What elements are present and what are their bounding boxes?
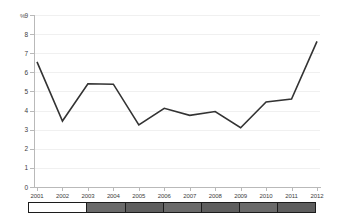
x-axis-tick (62, 188, 63, 191)
y-axis-tick-label: 6 (16, 69, 28, 76)
range-selector-segment[interactable] (87, 203, 125, 212)
x-axis-tick-label: 2012 (305, 193, 329, 199)
range-selector-segment[interactable] (202, 203, 240, 212)
x-axis-tick (266, 188, 267, 191)
x-axis-tick-label: 2011 (280, 193, 304, 199)
x-axis-tick-label: 2008 (203, 193, 227, 199)
x-axis-tick (292, 188, 293, 191)
y-axis-tick (30, 72, 34, 73)
range-selector-segment[interactable] (240, 203, 278, 212)
x-axis-tick-label: 2009 (229, 193, 253, 199)
y-axis-tick (30, 187, 34, 188)
x-axis-tick-label: 2006 (152, 193, 176, 199)
range-selector-segment[interactable] (278, 203, 315, 212)
y-axis-tick-label: 0 (16, 184, 28, 191)
x-axis-tick (37, 188, 38, 191)
x-axis-tick-label: 2001 (25, 193, 49, 199)
line-chart: % 9876543210 200120022003200420052006200… (0, 7, 339, 198)
y-axis-tick-label: 5 (16, 88, 28, 95)
y-axis-tick-label: 2 (16, 145, 28, 152)
y-axis-tick (30, 130, 34, 131)
x-axis-tick (317, 188, 318, 191)
x-axis-tick-label: 2004 (101, 193, 125, 199)
x-axis-tick-label: 2002 (50, 193, 74, 199)
y-axis-tick-label: 9 (16, 12, 28, 19)
y-axis-tick (30, 34, 34, 35)
y-axis-tick (30, 149, 34, 150)
x-axis-tick (190, 188, 191, 191)
x-axis-tick (139, 188, 140, 191)
y-axis-tick-label: 4 (16, 107, 28, 114)
x-axis-tick-label: 2003 (76, 193, 100, 199)
y-axis-tick (30, 15, 34, 16)
range-selector-segment[interactable] (29, 203, 87, 212)
y-axis-tick (30, 53, 34, 54)
data-series-line (34, 15, 321, 188)
x-axis-tick-label: 2005 (127, 193, 151, 199)
x-axis-tick-label: 2010 (254, 193, 278, 199)
y-axis-labels: 9876543210 (8, 7, 28, 198)
range-selector-segment[interactable] (164, 203, 202, 212)
chart-screen: % 9876543210 200120022003200420052006200… (0, 0, 339, 214)
y-axis-tick-label: 1 (16, 164, 28, 171)
range-selector-segment[interactable] (126, 203, 164, 212)
x-axis-tick (241, 188, 242, 191)
x-axis-tick (113, 188, 114, 191)
y-axis-tick (30, 168, 34, 169)
y-axis-tick-label: 3 (16, 126, 28, 133)
range-selector-bar[interactable] (28, 202, 316, 213)
y-axis-tick-label: 8 (16, 31, 28, 38)
x-axis-tick (215, 188, 216, 191)
x-axis-tick (88, 188, 89, 191)
header-strip (0, 0, 339, 7)
y-axis-tick-label: 7 (16, 50, 28, 57)
x-axis-tick (164, 188, 165, 191)
y-axis-tick (30, 91, 34, 92)
x-axis-tick-label: 2007 (178, 193, 202, 199)
y-axis-tick (30, 111, 34, 112)
